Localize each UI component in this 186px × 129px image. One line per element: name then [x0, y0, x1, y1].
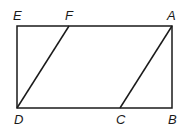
label-d: D [14, 112, 23, 127]
geometry-diagram: E F A D C B [0, 0, 186, 129]
segment-df [17, 26, 69, 108]
label-a: A [166, 8, 176, 23]
label-c: C [116, 112, 126, 127]
label-f: F [65, 8, 74, 23]
label-b: B [168, 112, 177, 127]
label-e: E [13, 8, 22, 23]
segment-ca [120, 26, 172, 108]
rectangle-ebde [17, 26, 172, 108]
